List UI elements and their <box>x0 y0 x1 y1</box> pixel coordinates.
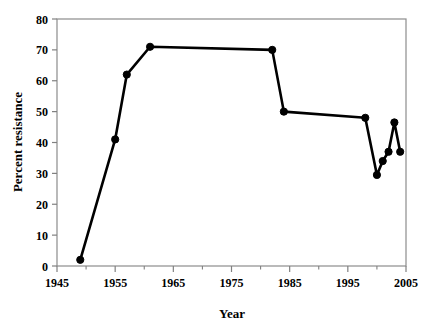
y-tick-label: 50 <box>36 105 48 119</box>
y-axis-ticks: 01020304050607080 <box>36 13 57 274</box>
y-tick-label: 40 <box>36 136 48 150</box>
y-tick-label: 80 <box>36 13 48 27</box>
data-point-marker <box>362 114 369 121</box>
data-point-marker <box>373 171 380 178</box>
y-tick-label: 10 <box>36 229 48 243</box>
data-point-marker <box>123 71 130 78</box>
data-point-marker <box>77 256 84 263</box>
y-tick-label: 70 <box>36 43 48 57</box>
data-point-marker <box>280 108 287 115</box>
x-tick-label: 1985 <box>278 276 302 290</box>
data-point-marker <box>391 119 398 126</box>
chart-figure: 01020304050607080 1945195519651975198519… <box>0 0 426 327</box>
x-tick-label: 1975 <box>220 276 244 290</box>
line-chart: 01020304050607080 1945195519651975198519… <box>0 0 426 327</box>
data-point-marker <box>112 136 119 143</box>
y-tick-label: 30 <box>36 167 48 181</box>
data-point-marker <box>397 148 404 155</box>
y-tick-label: 20 <box>36 198 48 212</box>
x-tick-label: 1955 <box>103 276 127 290</box>
x-tick-label: 1945 <box>45 276 69 290</box>
plot-area-frame <box>57 19 406 266</box>
x-tick-label: 1965 <box>161 276 185 290</box>
x-tick-label: 1995 <box>336 276 360 290</box>
y-tick-label: 0 <box>42 260 48 274</box>
y-tick-label: 60 <box>36 74 48 88</box>
x-tick-label: 2005 <box>394 276 418 290</box>
data-point-marker <box>379 157 386 164</box>
x-axis-title: Year <box>219 306 245 321</box>
data-point-marker <box>269 46 276 53</box>
x-axis-ticks: 1945195519651975198519952005 <box>45 266 418 290</box>
data-point-marker <box>146 43 153 50</box>
y-axis-title: Percent resistance <box>10 92 25 192</box>
data-point-marker <box>385 148 392 155</box>
